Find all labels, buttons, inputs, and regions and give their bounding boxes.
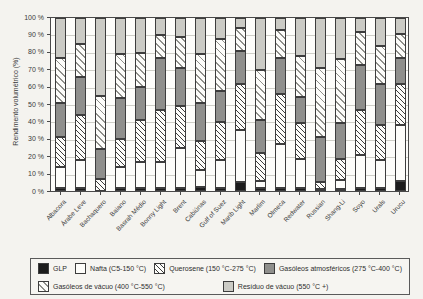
bar-segment: [115, 98, 126, 140]
legend-row-2: Gasóleos de vácuo (400 °C-550 °C)Resíduo…: [38, 281, 402, 292]
bar-segment: [275, 188, 286, 191]
bar-segment: [115, 188, 126, 191]
bar-segment: [335, 59, 346, 123]
bar-segment: [375, 84, 386, 126]
bar-soyo: [355, 18, 366, 191]
bar-segment: [375, 188, 386, 191]
bar-basrah-m-dio: [135, 18, 146, 191]
y-tick-label-80: 80 %: [12, 48, 44, 56]
x-tick-mark: [100, 192, 101, 195]
bar-segment: [375, 125, 386, 160]
bar-segment: [135, 53, 146, 88]
bar-segment: [155, 18, 166, 35]
y-tick-label-100: 100 %: [12, 14, 44, 22]
bar-segment: [295, 18, 306, 56]
bar-segment: [115, 18, 126, 54]
bar-baiano: [115, 18, 126, 191]
bar-segment: [55, 167, 66, 188]
y-tick-mark: [47, 17, 50, 18]
bar-segment: [75, 44, 86, 77]
bar-segment: [55, 103, 66, 138]
y-tick-mark: [47, 139, 50, 140]
legend-swatch-icon: [75, 263, 86, 274]
bar-segment: [195, 141, 206, 170]
bar-segment: [355, 65, 366, 110]
bar-segment: [195, 103, 206, 141]
bar-cabi-nas: [195, 18, 206, 191]
bar-segment: [215, 91, 226, 122]
bar-segment: [375, 160, 386, 188]
y-tick-mark: [47, 87, 50, 88]
y-tick-label-70: 70 %: [12, 66, 44, 74]
bar-segment: [275, 18, 286, 30]
bar-segment: [315, 137, 326, 182]
y-tick-mark: [47, 191, 50, 192]
bar-segment: [135, 188, 146, 191]
x-tick-mark: [299, 192, 300, 195]
bar-segment: [275, 58, 286, 94]
bar-marlim: [255, 18, 266, 191]
bar-segment: [335, 189, 346, 191]
bar-segment: [175, 188, 186, 191]
bar-segment: [75, 18, 86, 44]
bar-segment: [255, 188, 266, 191]
y-tick-label-10: 10 %: [12, 170, 44, 178]
bar-segment: [235, 18, 246, 28]
stacked-bar-chart-figure: Rendimento volumétrico (%) 0 %10 %20 %30…: [0, 0, 423, 299]
x-tick-mark: [220, 192, 221, 195]
bar-segment: [395, 181, 406, 191]
bar-segment: [295, 56, 306, 97]
bar-shang-li: [335, 18, 346, 191]
bar-gulf-of-suez: [215, 18, 226, 191]
x-tick-mark: [339, 192, 340, 195]
bar-segment: [315, 189, 326, 191]
y-tick-label-0: 0 %: [12, 188, 44, 196]
y-tick-label-30: 30 %: [12, 135, 44, 143]
y-tick-mark: [47, 156, 50, 157]
bar-segment: [335, 123, 346, 159]
legend-label: Nafta (C5-150 °C): [90, 265, 146, 272]
bar-segment: [215, 39, 226, 91]
bar-urucu: [395, 18, 406, 191]
bar-segment: [255, 181, 266, 189]
bar-segment: [395, 84, 406, 126]
x-tick-mark: [239, 192, 240, 195]
x-tick-mark: [120, 192, 121, 195]
bar-segment: [295, 123, 306, 159]
bar-segment: [155, 35, 166, 57]
bar-segment: [55, 137, 66, 166]
bar-redwater: [295, 18, 306, 191]
bar-segment: [255, 120, 266, 153]
legend-swatch-icon: [264, 263, 275, 274]
y-tick-label-90: 90 %: [12, 31, 44, 39]
bar-segment: [195, 18, 206, 54]
bar-segment: [255, 70, 266, 120]
bar-segment: [235, 51, 246, 84]
bar-segment: [215, 122, 226, 160]
bar-segment: [135, 87, 146, 120]
x-tick-mark: [319, 192, 320, 195]
bar-segment: [355, 188, 366, 191]
x-tick-mark: [279, 192, 280, 195]
legend-item-2: Querosene (150 °C-275 °C): [154, 263, 256, 274]
legend-swatch-icon: [154, 263, 165, 274]
y-tick-mark: [47, 104, 50, 105]
bar-segment: [275, 94, 286, 144]
bar-segment: [155, 162, 166, 189]
bar-segment: [195, 187, 206, 191]
bar-urals: [375, 18, 386, 191]
bar-marib-light: [235, 18, 246, 191]
bar-segment: [55, 18, 66, 58]
bar-segment: [155, 110, 166, 162]
legend-box: GLPNafta (C5-150 °C)Querosene (150 °C-27…: [30, 258, 410, 295]
bar-segment: [175, 37, 186, 68]
bar-segment: [175, 148, 186, 188]
bar-segment: [135, 120, 146, 162]
bar-segment: [315, 182, 326, 189]
bar-segment: [95, 149, 106, 178]
bar-segment: [55, 58, 66, 103]
bar-segment: [195, 54, 206, 102]
bar-segment: [295, 159, 306, 187]
bar-segment: [375, 18, 386, 46]
x-tick-mark: [359, 192, 360, 195]
